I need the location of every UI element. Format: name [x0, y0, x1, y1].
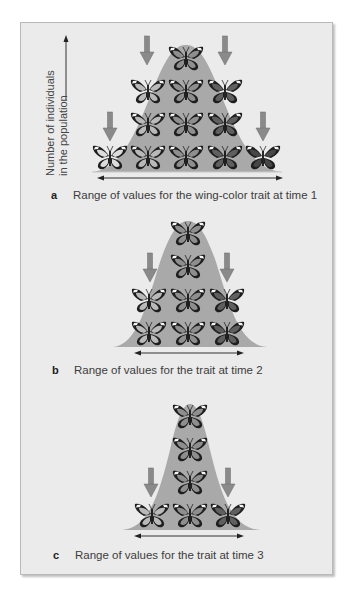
y-axis-label-line1: Number of individuals [44, 70, 57, 176]
selection-arrow-icon [103, 112, 117, 141]
selection-arrow-icon [221, 468, 235, 497]
panel-letter-b: b [52, 364, 74, 376]
selection-arrow-icon [143, 253, 157, 282]
panel-b [113, 221, 267, 356]
range-arrow-b [134, 351, 244, 356]
caption-text-c: Range of values for the trait at time 3 [75, 549, 264, 561]
panel-a [64, 35, 284, 181]
selection-arrow-icon [220, 253, 234, 282]
selection-arrow-icon [218, 36, 232, 65]
caption-text-b: Range of values for the trait at time 2 [74, 364, 263, 376]
selection-arrow-icon [256, 112, 270, 141]
caption-c: cRange of values for the trait at time 3 [53, 549, 264, 561]
panel-letter-a: a [51, 189, 73, 201]
panel-letter-c: c [53, 549, 75, 561]
range-arrow-c [134, 534, 244, 539]
caption-a: aRange of values for the wing-color trai… [51, 189, 317, 201]
caption-b: bRange of values for the trait at time 2 [52, 364, 263, 376]
caption-text-a: Range of values for the wing-color trait… [73, 189, 317, 201]
panel-c [122, 404, 260, 539]
y-axis-label: Number of individuals in the population [44, 70, 69, 176]
y-axis-label-line2: in the population [57, 70, 70, 176]
selection-arrow-icon [140, 36, 154, 65]
selection-arrow-icon [144, 468, 158, 497]
range-arrow-a [97, 176, 283, 181]
